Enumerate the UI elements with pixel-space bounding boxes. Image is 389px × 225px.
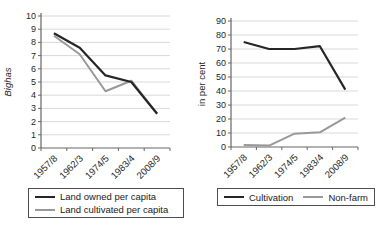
legend-item-cultivation: Cultivation [224, 192, 293, 203]
legend-label: Land owned per capita [60, 191, 156, 202]
series-line-non-farm [244, 118, 346, 146]
legend-label: Cultivation [249, 192, 293, 203]
y-tick-label: 6 [31, 64, 36, 74]
y-tick-label: 8 [31, 37, 36, 47]
legend-label: Non-farm [328, 192, 368, 203]
x-tick-label: 1957/8 [221, 152, 249, 180]
y-tick-label: 10 [216, 128, 226, 138]
y-tick-label: 9 [31, 24, 36, 34]
x-tick-label: 1957/8 [31, 153, 59, 181]
legend-label: Land cultivated per capita [60, 204, 168, 215]
y-tick-label: 40 [216, 86, 226, 96]
series-line-land-owned-per-capita [54, 33, 157, 114]
x-tick-label: 1962/3 [57, 153, 85, 181]
x-tick-label: 1983/4 [297, 152, 325, 180]
y-tick-label: 90 [216, 16, 226, 26]
legend-item-land-owned: Land owned per capita [35, 191, 183, 202]
y-tick-label: 7 [31, 51, 36, 61]
land-per-capita-chart: 0123456789101957/81962/31974/51983/42008… [0, 0, 195, 186]
y-tick-label: 70 [216, 44, 226, 54]
y-tick-label: 80 [216, 30, 226, 40]
right-chart-legend: Cultivation Non-farm [217, 188, 375, 206]
y-tick-label: 60 [216, 58, 226, 68]
y-tick-label: 0 [221, 142, 226, 152]
legend-item-non-farm: Non-farm [303, 192, 368, 203]
non-farm-line-swatch [303, 196, 323, 198]
y-tick-label: 0 [31, 143, 36, 153]
y-tick-label: 20 [216, 114, 226, 124]
x-tick-label: 1962/3 [246, 152, 274, 180]
y-tick-label: 3 [31, 103, 36, 113]
x-tick-label: 2008/9 [322, 152, 350, 180]
y-tick-label: 50 [216, 72, 226, 82]
y-tick-label: 10 [26, 11, 36, 21]
y-tick-label: 1 [31, 130, 36, 140]
y-axis-title: in per cent [196, 61, 207, 106]
cultivation-line-swatch [224, 196, 244, 198]
dual-line-chart-figure: 0123456789101957/81962/31974/51983/42008… [0, 0, 389, 225]
y-tick-label: 5 [31, 77, 36, 87]
land-owned-line-swatch [35, 196, 55, 198]
occupation-share-chart: 01020304050607080901957/81962/31974/5198… [195, 0, 389, 186]
x-tick-label: 1974/5 [83, 153, 111, 181]
y-tick-label: 30 [216, 100, 226, 110]
x-tick-label: 1983/4 [108, 153, 136, 181]
left-chart-legend: Land owned per capita Land cultivated pe… [28, 188, 184, 218]
y-axis-title: Bighas [2, 67, 13, 96]
x-tick-label: 2008/9 [134, 153, 162, 181]
legend-item-land-cultivated: Land cultivated per capita [35, 204, 183, 215]
land-cultivated-line-swatch [35, 209, 55, 211]
y-tick-label: 4 [31, 90, 36, 100]
x-tick-label: 1974/5 [272, 152, 300, 180]
y-tick-label: 2 [31, 117, 36, 127]
